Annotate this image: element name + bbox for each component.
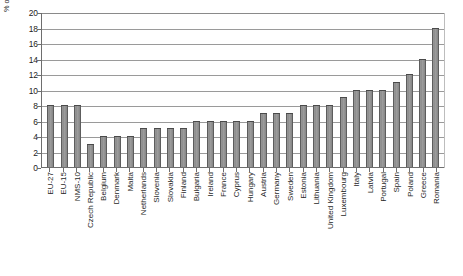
x-axis-tick-mark <box>209 168 210 172</box>
x-axis-tick-mark <box>436 168 437 172</box>
bar-slot <box>137 13 150 167</box>
x-axis-label-slot: Latvia <box>363 172 376 262</box>
bar-slot <box>204 13 217 167</box>
bar <box>353 90 360 168</box>
bar-slot <box>363 13 376 167</box>
x-axis-label-slot: Hungary <box>243 172 256 262</box>
bar-slot <box>350 13 363 167</box>
bar <box>180 128 187 167</box>
bar-slot <box>84 13 97 167</box>
bar-slot <box>44 13 57 167</box>
x-axis-label-slot: Germany <box>270 172 283 262</box>
bar <box>340 97 347 167</box>
x-axis-tick-mark <box>76 168 77 172</box>
x-axis-label-slot: Bulgaria <box>190 172 203 262</box>
x-axis-label-slot: Portugal <box>376 172 389 262</box>
bar <box>313 105 320 167</box>
x-axis-tick-label: Portugal <box>379 172 388 202</box>
bar-slot <box>270 13 283 167</box>
x-axis-tick-labels: EU-27EU-15NMS-10Czech RepublicBelgiumDen… <box>41 172 445 262</box>
x-axis-label-slot: Romania <box>430 172 443 262</box>
bar-slot <box>190 13 203 167</box>
x-axis-tick-label: Czech Republic <box>85 172 94 228</box>
plot-right-edge <box>444 13 445 168</box>
x-axis-tick-label: Netherlands <box>139 172 148 215</box>
bar <box>61 105 68 167</box>
bar-slot <box>297 13 310 167</box>
x-axis-tick-label: Luxembourg <box>339 172 348 216</box>
x-axis-label-slot: Cyprus <box>230 172 243 262</box>
y-axis-title: % of people employed aged 18 or more <box>0 0 14 28</box>
x-axis-tick-mark <box>143 168 144 172</box>
x-axis-label-slot: Spain <box>390 172 403 262</box>
x-axis-tick-mark <box>396 168 397 172</box>
x-axis-label-slot: Denmark <box>110 172 123 262</box>
x-axis-label-slot: Austria <box>256 172 269 262</box>
x-axis-label-slot: United Kingdom <box>323 172 336 262</box>
x-axis-tick-label: EU-27 <box>45 172 54 195</box>
bar <box>127 136 134 167</box>
x-axis-tick-mark <box>409 168 410 172</box>
x-axis-label-slot: EU-27 <box>43 172 56 262</box>
x-axis-tick-label: Ireland <box>205 172 214 196</box>
x-axis-label-slot: Belgium <box>97 172 110 262</box>
bar-slot <box>403 13 416 167</box>
x-axis-tick-label: NMS-10 <box>72 172 81 201</box>
x-axis-label-slot: France <box>216 172 229 262</box>
bar-slot <box>150 13 163 167</box>
x-axis-label-slot: Estonia <box>296 172 309 262</box>
x-axis-tick-mark <box>183 168 184 172</box>
x-axis-tick-label: Cyprus <box>232 172 241 197</box>
bar-slot <box>390 13 403 167</box>
x-axis-label-slot: Slovakia <box>163 172 176 262</box>
bar-slot <box>429 13 442 167</box>
bar-slot <box>217 13 230 167</box>
x-axis-tick-mark <box>89 168 90 172</box>
x-axis-tick-mark <box>169 168 170 172</box>
bar <box>233 121 240 168</box>
x-axis-tick-label: France <box>219 172 228 197</box>
bar <box>432 28 439 168</box>
x-axis-tick-label: Sweden <box>285 172 294 201</box>
bar <box>406 74 413 167</box>
bar-slot <box>97 13 110 167</box>
x-axis-tick-mark <box>249 168 250 172</box>
plot-area <box>41 13 445 168</box>
x-axis-tick-mark <box>423 168 424 172</box>
x-axis-tick-label: Denmark <box>112 172 121 204</box>
x-axis-tick-label: Austria <box>259 172 268 197</box>
bar-slot <box>376 13 389 167</box>
bar-slot <box>416 13 429 167</box>
x-axis-label-slot: EU-15 <box>57 172 70 262</box>
x-axis-tick-label: Italy <box>352 172 361 187</box>
x-axis-tick-label: Hungary <box>245 172 254 202</box>
bar-slot <box>243 13 256 167</box>
bar-slot <box>323 13 336 167</box>
bar <box>87 144 94 167</box>
bar <box>167 128 174 167</box>
bar-slot <box>283 13 296 167</box>
bar <box>207 121 214 168</box>
bar <box>300 105 307 167</box>
x-axis-tick-label: Bulgaria <box>192 172 201 201</box>
bar-slot <box>57 13 70 167</box>
bar <box>393 82 400 167</box>
bar <box>366 90 373 168</box>
bar <box>286 113 293 167</box>
x-axis-label-slot: Ireland <box>203 172 216 262</box>
bar-slot <box>230 13 243 167</box>
x-axis-tick-label: Belgium <box>99 172 108 201</box>
x-axis-label-slot: Malta <box>123 172 136 262</box>
x-axis-tick-label: EU-15 <box>59 172 68 195</box>
bar <box>100 136 107 167</box>
x-axis-tick-mark <box>343 168 344 172</box>
x-axis-tick-mark <box>116 168 117 172</box>
x-axis-label-slot: Finland <box>176 172 189 262</box>
bar-slot <box>177 13 190 167</box>
x-axis-label-slot: Poland <box>403 172 416 262</box>
bar <box>47 105 54 167</box>
bar-slot <box>71 13 84 167</box>
x-axis-tick-label: Estonia <box>299 172 308 199</box>
x-axis-label-slot: NMS-10 <box>70 172 83 262</box>
bar <box>114 136 121 167</box>
